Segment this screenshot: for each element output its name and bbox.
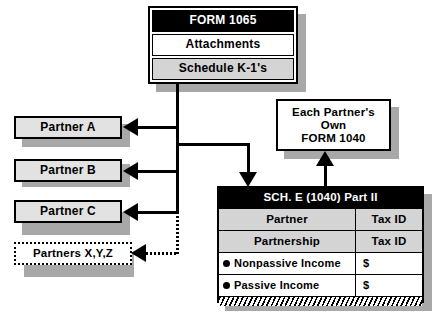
table-row[interactable]: Partner Tax ID bbox=[219, 209, 422, 231]
partner-c-box[interactable]: Partner C bbox=[14, 200, 122, 223]
schedule-e-row-1-right: Tax ID bbox=[372, 235, 407, 248]
form-1040-line2: Own bbox=[321, 119, 347, 132]
partner-c-label: Partner C bbox=[40, 205, 96, 219]
schedule-e-row-3-left: Passive Income bbox=[234, 279, 319, 292]
partner-b-box[interactable]: Partner B bbox=[14, 159, 122, 182]
arrow-partners-xyz bbox=[131, 244, 146, 262]
table-row[interactable]: Nonpassive Income $ bbox=[219, 253, 422, 275]
branch-line-partner-c bbox=[138, 211, 178, 214]
arrow-form-1040 bbox=[316, 151, 334, 166]
schedule-e-hatched-band bbox=[219, 297, 422, 306]
partner-b-label: Partner B bbox=[40, 164, 96, 178]
form-1065-header-label: FORM 1065 bbox=[189, 14, 256, 28]
bullet-icon bbox=[223, 282, 230, 289]
schedule-e-header: SCH. E (1040) Part II bbox=[219, 188, 422, 209]
schedule-e-header-label: SCH. E (1040) Part II bbox=[263, 191, 377, 204]
branch-line-schedule-e-vertical bbox=[247, 143, 250, 174]
schedule-e-row-3-right: $ bbox=[363, 279, 369, 292]
form-1065-header: FORM 1065 bbox=[152, 10, 294, 32]
link-line-schedule-e-to-1040 bbox=[324, 163, 327, 188]
bullet-icon bbox=[223, 260, 230, 267]
branch-line-partner-b bbox=[138, 170, 178, 173]
arrow-partner-c bbox=[123, 203, 138, 221]
form-1065-schedule-k1-row[interactable]: Schedule K-1's bbox=[152, 58, 294, 80]
arrow-partner-b bbox=[123, 162, 138, 180]
schedule-e-row-0-left: Partner bbox=[266, 213, 308, 226]
dotted-trunk-partners-xyz bbox=[176, 208, 179, 254]
trunk-vertical-line bbox=[176, 84, 179, 212]
branch-line-schedule-e-horizontal bbox=[176, 143, 250, 146]
partner-a-label: Partner A bbox=[40, 121, 95, 135]
form-1040-line3: FORM 1040 bbox=[301, 132, 365, 145]
schedule-e-cell-partner: Partner bbox=[219, 209, 356, 230]
schedule-e-cell-partner-taxid: Tax ID bbox=[356, 209, 422, 230]
schedule-e-row-0-right: Tax ID bbox=[372, 213, 407, 226]
schedule-e-row-2-left: Nonpassive Income bbox=[234, 257, 341, 270]
schedule-e-cell-partnership-taxid: Tax ID bbox=[356, 231, 422, 252]
form-1065-box[interactable]: FORM 1065 Attachments Schedule K-1's bbox=[148, 6, 298, 84]
schedule-e-table[interactable]: SCH. E (1040) Part II Partner Tax ID Par… bbox=[217, 186, 424, 303]
form-1065-schedule-k1-label: Schedule K-1's bbox=[179, 62, 267, 76]
form-1040-box[interactable]: Each Partner's Own FORM 1040 bbox=[276, 99, 391, 151]
form-1065-attachments-row[interactable]: Attachments bbox=[152, 34, 294, 56]
dotted-branch-partners-xyz bbox=[146, 252, 178, 255]
schedule-e-cell-passive: Passive Income bbox=[219, 275, 356, 296]
schedule-e-row-2-right: $ bbox=[363, 257, 369, 270]
partners-xyz-box[interactable]: Partners X,Y,Z bbox=[14, 242, 132, 265]
schedule-e-row-1-left: Partnership bbox=[254, 235, 320, 248]
partners-xyz-label: Partners X,Y,Z bbox=[33, 247, 113, 260]
arrow-partner-a bbox=[123, 118, 138, 136]
schedule-e-cell-passive-amount[interactable]: $ bbox=[356, 275, 422, 296]
diagram-canvas: FORM 1065 Attachments Schedule K-1's Par… bbox=[0, 0, 443, 328]
form-1040-line1: Each Partner's bbox=[292, 106, 375, 119]
partner-a-box[interactable]: Partner A bbox=[14, 116, 122, 139]
schedule-e-cell-nonpassive-amount[interactable]: $ bbox=[356, 253, 422, 274]
table-row[interactable]: Partnership Tax ID bbox=[219, 231, 422, 253]
form-1065-attachments-label: Attachments bbox=[186, 38, 261, 52]
table-row[interactable]: Passive Income $ bbox=[219, 275, 422, 297]
schedule-e-cell-partnership: Partnership bbox=[219, 231, 356, 252]
branch-line-partner-a bbox=[138, 126, 178, 129]
schedule-e-cell-nonpassive: Nonpassive Income bbox=[219, 253, 356, 274]
arrow-schedule-e bbox=[239, 172, 257, 187]
